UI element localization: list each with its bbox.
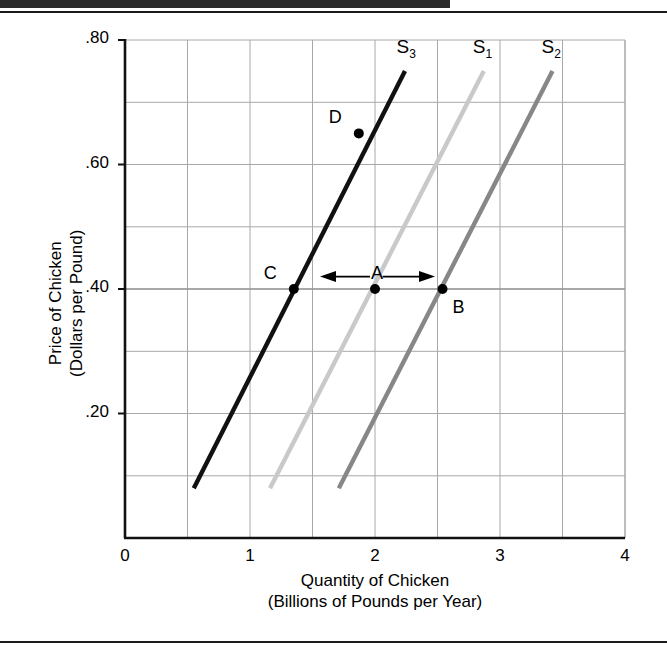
- curve-label-s2: S2: [542, 36, 561, 61]
- figure-page: .80 .60 .40 .20 0 1 2 3 4 S3 S1 S2 A B C…: [0, 0, 667, 653]
- curve-label-base: S: [473, 36, 486, 57]
- data-point-c: [289, 284, 299, 294]
- arrow-right-head: [419, 271, 435, 282]
- data-point-b: [438, 284, 448, 294]
- arrow-left-head: [320, 271, 336, 282]
- x-axis-title-line2: (Billions of Pounds per Year): [125, 591, 625, 612]
- curve-label-base: S: [397, 36, 410, 57]
- x-tick-label-1: 1: [230, 546, 270, 566]
- x-tick-label-2: 2: [355, 546, 395, 566]
- point-label-c: C: [264, 263, 277, 284]
- x-tick-label-3: 3: [480, 546, 520, 566]
- curve-label-s3: S3: [397, 36, 416, 61]
- point-label-d: D: [329, 107, 342, 128]
- point-label-a: A: [371, 263, 383, 284]
- data-point-a: [370, 284, 380, 294]
- y-tick-label-080: .80: [49, 28, 109, 48]
- page-top-dark-bar: [0, 0, 450, 8]
- curve-label-subscript: 2: [554, 47, 561, 61]
- data-point-d: [354, 128, 364, 138]
- curve-label-subscript: 1: [485, 47, 492, 61]
- x-tick-label-0: 0: [105, 546, 145, 566]
- curve-label-s1: S1: [473, 36, 492, 61]
- y-axis-title: Price of Chicken (Dollars per Pound): [45, 153, 88, 453]
- x-axis-title-line1: Quantity of Chicken: [125, 570, 625, 591]
- bottom-horizontal-rule: [0, 641, 667, 643]
- curve-label-subscript: 3: [409, 47, 416, 61]
- y-axis-title-line1: Price of Chicken: [45, 153, 66, 453]
- y-axis-title-line2: (Dollars per Pound): [66, 153, 87, 453]
- top-horizontal-rule: [0, 11, 667, 13]
- chart-figure: .80 .60 .40 .20 0 1 2 3 4 S3 S1 S2 A B C…: [0, 14, 667, 639]
- curve-label-base: S: [542, 36, 555, 57]
- x-tick-label-4: 4: [605, 546, 645, 566]
- point-label-b: B: [453, 297, 465, 318]
- x-axis-title: Quantity of Chicken (Billions of Pounds …: [125, 570, 625, 613]
